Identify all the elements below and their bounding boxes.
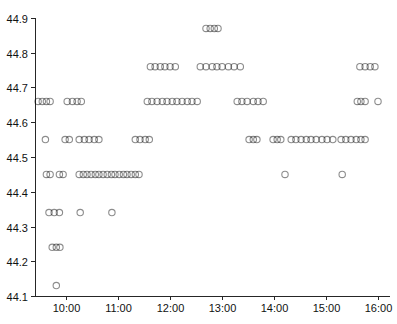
x-tick-label: 11:00 [105,302,132,314]
chart-canvas: 44.144.244.344.444.544.644.744.844.910:0… [0,0,397,324]
y-tick-label: 44.6 [7,117,28,129]
x-tick-label: 12:00 [157,302,185,314]
data-point [78,98,84,104]
data-point [66,136,72,142]
data-point [109,209,115,215]
x-tick-label: 10:00 [53,302,81,314]
y-tick-label: 44.4 [7,187,28,199]
x-tick-label: 13:00 [209,302,237,314]
data-point [42,136,48,142]
y-tick-label: 44.3 [7,222,28,234]
data-point [77,209,83,215]
data-point [362,136,368,142]
x-tick-label: 14:00 [261,302,289,314]
data-point [375,98,381,104]
y-tick-label: 44.8 [7,48,28,60]
data-point [237,63,243,69]
y-tick-label: 44.2 [7,256,28,268]
x-tick-label: 15:00 [313,302,341,314]
y-tick-label: 44.9 [7,13,28,25]
y-tick-label: 44.5 [7,152,28,164]
data-point [282,171,288,177]
y-tick-label: 44.1 [7,291,28,303]
data-point [96,136,102,142]
x-tick-label: 16:00 [365,302,393,314]
data-point [146,136,152,142]
data-point [339,171,345,177]
scatter-plot: 44.144.244.344.444.544.644.744.844.910:0… [0,0,397,324]
data-point [53,282,59,288]
data-point [372,63,378,69]
y-tick-label: 44.7 [7,82,28,94]
data-point [362,98,368,104]
